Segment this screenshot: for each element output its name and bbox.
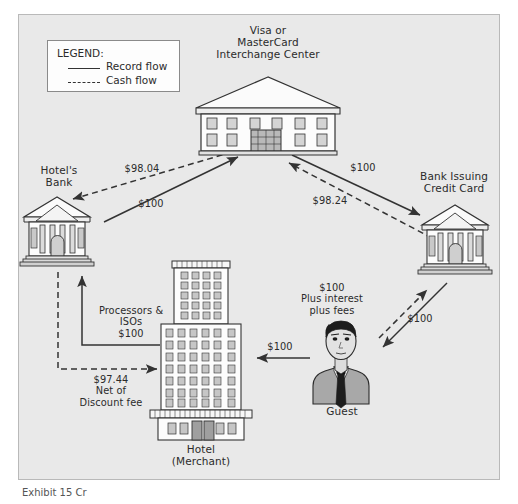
hotel-tower-icon — [150, 261, 252, 440]
solid-line-swatch — [68, 68, 100, 69]
node-label-hotel-bank: Hotel's Bank — [17, 164, 101, 188]
flow-label-guest-to-issuing-cash: $100 Plus interest plus fees — [295, 282, 369, 316]
guest-person-icon — [313, 321, 369, 408]
interchange-building-icon — [196, 77, 340, 155]
node-label-hotel: Hotel (Merchant) — [156, 443, 246, 467]
flow-label-hotelbank-to-hotel-cash: $97.44 Net of Discount fee — [62, 374, 160, 408]
legend-title: LEGEND: — [57, 47, 104, 59]
node-label-guest: Guest — [313, 405, 371, 417]
flow-label-interchange-to-hotelbank-cash: $98.04 — [112, 163, 172, 174]
flow-label-issuing-to-interchange-cash: $98.24 — [300, 195, 360, 206]
legend-box: LEGEND: Record flow Cash flow — [47, 40, 180, 92]
dashed-line-swatch — [68, 82, 100, 83]
issuing-bank-icon — [418, 205, 492, 274]
flow-label-guest-to-issuing-record: $100 — [399, 313, 441, 324]
node-label-interchange: Visa or MasterCard Interchange Center — [190, 24, 346, 60]
flow-label-guest-to-hotel-record: $100 — [258, 341, 302, 352]
hotel-bank-icon — [20, 197, 94, 266]
legend-item-label: Record flow — [106, 60, 167, 72]
diagram-stage: LEGEND: Record flow Cash flow Visa or Ma… — [0, 0, 518, 504]
flow-label-interchange-to-issuing-record: $100 — [339, 162, 387, 173]
node-label-issuing-bank: Bank Issuing Credit Card — [404, 170, 504, 194]
figure-caption: Exhibit 15 Cr — [22, 487, 352, 502]
legend-item-label: Cash flow — [106, 74, 157, 86]
flow-label-hotel-to-hotelbank-record: Processors & ISOs $100 — [84, 305, 178, 339]
flow-label-hotelbank-to-interchange-record: $100 — [127, 198, 175, 209]
